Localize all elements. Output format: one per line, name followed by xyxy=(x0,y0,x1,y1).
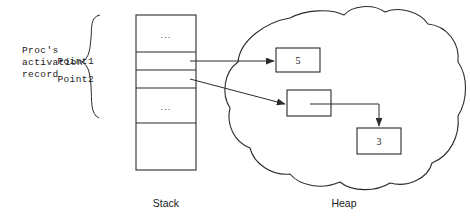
brace-label-line-1: Proc's xyxy=(22,45,59,56)
heap-box-five-value: 5 xyxy=(296,55,301,66)
diagram-svg: Proc's activation record ... ... Point1 … xyxy=(0,0,470,223)
stack-cell-upper-ellipsis: ... xyxy=(160,30,171,40)
heap-box-pointer xyxy=(287,90,331,116)
stack-label-point1: Point1 xyxy=(57,56,94,67)
brace-label-line-3: record xyxy=(22,69,59,80)
stack-cell-lower-ellipsis: ... xyxy=(160,102,171,112)
stack-label-point2: Point2 xyxy=(57,74,94,85)
heap-box-three-value: 3 xyxy=(377,136,382,147)
heap-region-label: Heap xyxy=(331,197,356,209)
stack-region-label: Stack xyxy=(153,197,180,209)
diagram-canvas: Proc's activation record ... ... Point1 … xyxy=(0,0,470,223)
